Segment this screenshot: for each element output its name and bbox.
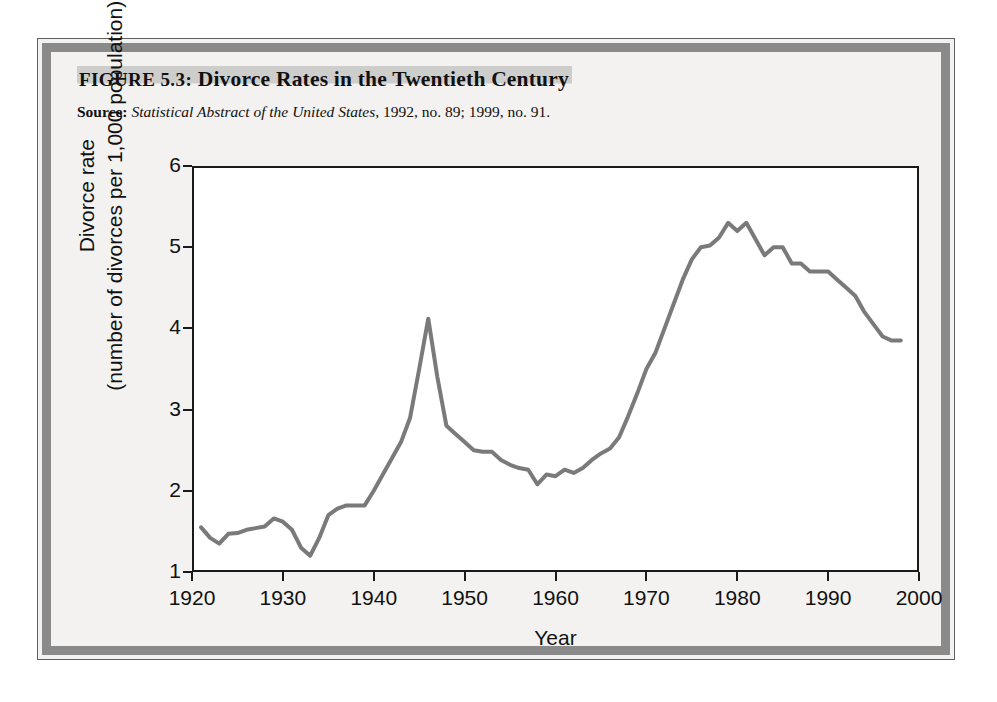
y-axis-title-line2: (number of divorces per 1,000 population…: [101, 0, 129, 398]
y-axis-tick-label: 6: [141, 153, 181, 177]
x-axis-tick: [827, 572, 829, 581]
y-axis-tick: [183, 165, 192, 167]
y-axis-tick-label: 5: [141, 234, 181, 258]
y-axis-tick-label: 3: [141, 397, 181, 421]
y-axis-tick-label: 2: [141, 478, 181, 502]
figure-box: FIGURE 5.3: Divorce Rates in the Twentie…: [37, 38, 955, 660]
y-axis-tick: [183, 246, 192, 248]
y-axis-tick: [183, 409, 192, 411]
x-axis-tick-label: 1970: [601, 586, 691, 610]
y-axis-tick: [183, 327, 192, 329]
chart: Divorce rate (number of divorces per 1,0…: [51, 52, 969, 674]
figure-inner: FIGURE 5.3: Divorce Rates in the Twentie…: [51, 52, 941, 646]
y-axis-tick-label: 4: [141, 315, 181, 339]
figure-frame: FIGURE 5.3: Divorce Rates in the Twentie…: [42, 43, 950, 655]
x-axis-tick-label: 1990: [783, 586, 873, 610]
x-axis-tick: [918, 572, 920, 581]
divorce-rate-line: [201, 223, 901, 556]
x-axis-tick: [645, 572, 647, 581]
x-axis-tick: [736, 572, 738, 581]
plot-line-svg: [192, 166, 919, 572]
x-axis-tick-label: 1920: [147, 586, 237, 610]
x-axis-tick: [282, 572, 284, 581]
x-axis-tick: [373, 572, 375, 581]
y-axis-title: Divorce rate (number of divorces per 1,0…: [73, 0, 128, 398]
x-axis-tick-label: 2000: [874, 586, 964, 610]
x-axis-tick: [555, 572, 557, 581]
x-axis-tick-label: 1950: [420, 586, 510, 610]
x-axis-tick-label: 1980: [692, 586, 782, 610]
x-axis-tick-label: 1930: [238, 586, 328, 610]
x-axis-tick: [191, 572, 193, 581]
x-axis-tick-label: 1940: [329, 586, 419, 610]
y-axis-tick-label: 1: [141, 559, 181, 583]
x-axis-tick-label: 1960: [511, 586, 601, 610]
page: FIGURE 5.3: Divorce Rates in the Twentie…: [0, 0, 997, 702]
y-axis-tick: [183, 490, 192, 492]
x-axis-title: Year: [192, 626, 919, 650]
y-axis-title-line1: Divorce rate: [75, 139, 98, 252]
x-axis-tick: [464, 572, 466, 581]
